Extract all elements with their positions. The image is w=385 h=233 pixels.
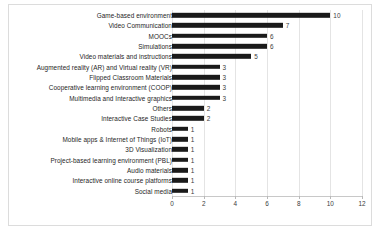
bar-value-label: 6 [270, 32, 274, 39]
bar-value-label: 10 [333, 12, 340, 19]
bar-row: Cooperative learning environment (COOP)3 [0, 82, 385, 92]
bar [172, 106, 204, 110]
bar-row: Project-based learning environment (PBL)… [0, 155, 385, 165]
bar-value-label: 1 [191, 177, 195, 184]
bar [172, 168, 188, 172]
category-label: Video materials and instructions [79, 53, 172, 60]
bar-row: Interactive online course platforms1 [0, 175, 385, 185]
bar [172, 23, 283, 27]
bar [172, 137, 188, 141]
bar-value-label: 3 [223, 63, 227, 70]
tick-label: 8 [297, 200, 301, 207]
x-axis-ticks: 024681012 [172, 196, 362, 214]
category-label: Cooperative learning environment (COOP) [49, 84, 172, 91]
category-label: Mobile apps & Internet of Things (IoT) [62, 136, 172, 143]
tick-mark-12 [362, 196, 363, 199]
bar [172, 75, 220, 79]
bar-value-label: 1 [191, 125, 195, 132]
bar-value-label: 2 [207, 105, 211, 112]
category-label: Others [152, 105, 172, 112]
bar-row: Simulations6 [0, 41, 385, 51]
bar-value-label: 2 [207, 115, 211, 122]
tick-mark-2 [204, 196, 205, 199]
category-label: Robots [151, 125, 172, 132]
bar-row: 3D Visualization1 [0, 144, 385, 154]
bar-row: Multimedia and Interactive graphics3 [0, 93, 385, 103]
bar-value-label: 5 [254, 53, 258, 60]
category-label: Multimedia and Interactive graphics [69, 94, 172, 101]
tick-label: 12 [358, 200, 365, 207]
bar-rows-container: Game-based environment10Video Communicat… [0, 10, 385, 196]
bar-row: Robots1 [0, 124, 385, 134]
bar-row: Social media1 [0, 186, 385, 196]
bar [172, 54, 251, 58]
bar-row: Mobile apps & Internet of Things (IoT)1 [0, 134, 385, 144]
bar-row: Video Communication7 [0, 20, 385, 30]
bar-row: Augmented reality (AR) and Virtual reali… [0, 62, 385, 72]
bar-value-label: 1 [191, 156, 195, 163]
bar-value-label: 6 [270, 43, 274, 50]
bar-value-label: 1 [191, 187, 195, 194]
category-label: Flipped Classroom Materials [89, 74, 172, 81]
bar-value-label: 3 [223, 74, 227, 81]
bar [172, 178, 188, 182]
bar-row: MOOCs6 [0, 31, 385, 41]
category-label: MOOCs [149, 32, 172, 39]
category-label: 3D Visualization [125, 146, 172, 153]
category-label: Project-based learning environment (PBL) [50, 156, 172, 163]
bar-chart-figure: Game-based environment10Video Communicat… [0, 0, 385, 233]
bar-value-label: 1 [191, 136, 195, 143]
tick-label: 2 [202, 200, 206, 207]
tick-label: 6 [265, 200, 269, 207]
tick-label: 0 [170, 200, 174, 207]
bar-value-label: 3 [223, 94, 227, 101]
bar-row: Interactive Case Studies2 [0, 113, 385, 123]
bar [172, 127, 188, 131]
category-label: Interactive online course platforms [72, 177, 172, 184]
bar [172, 44, 267, 48]
category-label: Audio materials [127, 167, 172, 174]
tick-label: 4 [234, 200, 238, 207]
bar-row: Others2 [0, 103, 385, 113]
bar [172, 147, 188, 151]
bar-row: Audio materials1 [0, 165, 385, 175]
bar-row: Video materials and instructions5 [0, 51, 385, 61]
bar-row: Flipped Classroom Materials3 [0, 72, 385, 82]
tick-mark-4 [235, 196, 236, 199]
bar [172, 158, 188, 162]
tick-mark-6 [267, 196, 268, 199]
category-label: Game-based environment [97, 12, 172, 19]
bar-row: Game-based environment10 [0, 10, 385, 20]
bar [172, 85, 220, 89]
category-label: Video Communication [108, 22, 172, 29]
bar [172, 96, 220, 100]
bar [172, 13, 330, 17]
category-label: Simulations [138, 43, 172, 50]
bar [172, 189, 188, 193]
category-label: Social media [135, 187, 172, 194]
bar-value-label: 1 [191, 146, 195, 153]
bar-value-label: 7 [286, 22, 290, 29]
tick-mark-10 [330, 196, 331, 199]
tick-mark-0 [172, 196, 173, 199]
tick-label: 10 [327, 200, 334, 207]
tick-mark-8 [299, 196, 300, 199]
category-label: Interactive Case Studies [101, 115, 172, 122]
bar [172, 34, 267, 38]
bar-value-label: 1 [191, 167, 195, 174]
bar [172, 116, 204, 120]
category-label: Augmented reality (AR) and Virtual reali… [37, 63, 172, 70]
bar-value-label: 3 [223, 84, 227, 91]
bar [172, 65, 220, 69]
